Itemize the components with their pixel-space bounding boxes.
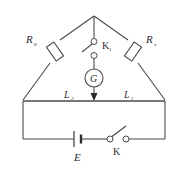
wire-l1-subscript: 1 <box>131 96 134 101</box>
switch-k-label: K <box>113 146 121 157</box>
resistor-r0-subscript: 0 <box>34 42 37 47</box>
switch-k-terminal-left[interactable] <box>107 136 113 142</box>
switch-k1-subscript: 1 <box>109 47 112 52</box>
switch-k1-terminal-lower[interactable] <box>91 53 97 59</box>
left-branch-wire-lower <box>23 63 50 100</box>
switch-k1-blade[interactable] <box>82 44 92 52</box>
right-branch-wire-upper <box>94 16 128 40</box>
resistor-rx-body <box>124 42 141 61</box>
switch-k1-terminal-upper[interactable] <box>91 39 97 45</box>
wire-l1-label: L <box>123 89 130 100</box>
right-branch: R x <box>94 16 165 100</box>
resistor-rx-label: R <box>145 33 153 45</box>
battery-label: E <box>73 151 81 163</box>
switch-k-terminal-right[interactable] <box>123 136 129 142</box>
battery-loop: E K <box>23 101 165 163</box>
circuit-svg: R 0 R x K 1 G <box>0 0 188 170</box>
right-branch-wire-lower <box>138 63 165 100</box>
circuit-diagram: R 0 R x K 1 G <box>0 0 188 170</box>
left-branch-wire-upper <box>60 16 94 40</box>
wire-l2-label: L <box>63 89 70 100</box>
left-branch: R 0 <box>23 16 94 100</box>
switch-k-blade[interactable] <box>112 126 126 137</box>
slider-contact-arrow[interactable] <box>91 93 98 101</box>
bridge-branch: K 1 G <box>82 16 112 101</box>
resistor-r0-label: R <box>25 33 33 45</box>
galvanometer-label: G <box>90 73 97 84</box>
resistor-r0-body <box>46 42 63 61</box>
resistor-rx-subscript: x <box>153 42 157 47</box>
